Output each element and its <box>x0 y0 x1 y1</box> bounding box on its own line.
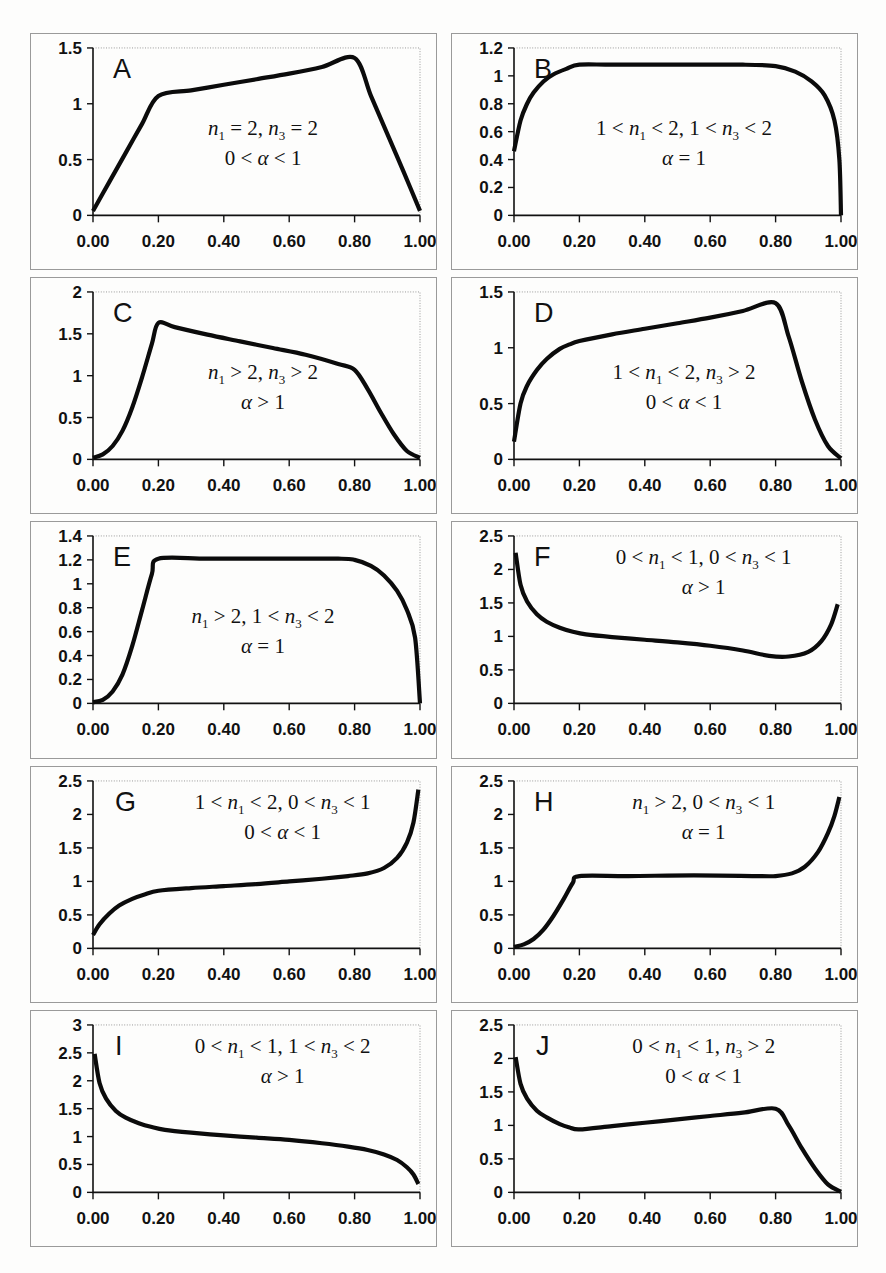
chart-panel-i: 00.511.522.530.000.200.400.600.801.00I0 … <box>30 1010 437 1247</box>
x-tick-label: 0.20 <box>563 476 596 495</box>
x-tick-label: 0.40 <box>207 721 240 740</box>
annotation-line-2: 0 < α < 1 <box>225 146 302 170</box>
panel-letter-j: J <box>536 1031 549 1061</box>
y-tick-label: 0 <box>73 695 82 714</box>
x-tick-label: 0.20 <box>563 232 596 251</box>
y-tick-label: 0 <box>73 206 82 225</box>
chart-svg-c: 00.511.520.000.200.400.600.801.00Cn1 > 2… <box>31 278 436 513</box>
y-tick-label: 2 <box>73 805 82 824</box>
x-tick-label: 0.80 <box>759 232 792 251</box>
panel-grid: 00.511.50.000.200.400.600.801.00An1 = 2,… <box>30 33 858 1247</box>
x-tick-label: 0.80 <box>338 1209 371 1228</box>
x-tick-label: 0.60 <box>273 1209 306 1228</box>
panel-letter-f: F <box>534 542 550 572</box>
y-tick-label: 1 <box>494 628 503 647</box>
panel-letter-e: E <box>113 542 131 572</box>
y-tick-label: 0.2 <box>58 671 82 690</box>
y-tick-label: 3 <box>73 1016 82 1035</box>
y-tick-label: 0.4 <box>479 151 503 170</box>
chart-svg-f: 00.511.522.50.000.200.400.600.801.00F0 <… <box>452 522 857 757</box>
chart-svg-e: 00.20.40.60.811.21.40.000.200.400.600.80… <box>31 522 436 757</box>
y-tick-label: 1.2 <box>479 39 503 58</box>
x-tick-label: 1.00 <box>824 1209 857 1228</box>
annotation-line-2: α > 1 <box>241 390 285 414</box>
x-tick-label: 0.80 <box>759 476 792 495</box>
x-tick-label: 0.60 <box>273 232 306 251</box>
chart-panel-a: 00.511.50.000.200.400.600.801.00An1 = 2,… <box>30 33 437 270</box>
y-tick-label: 0 <box>494 939 503 958</box>
annotation-line-2: α = 1 <box>682 819 726 843</box>
y-tick-label: 0.5 <box>58 151 82 170</box>
annotation-line-1: n1 > 2, n3 > 2 <box>208 360 318 387</box>
y-tick-label: 1.5 <box>479 283 503 302</box>
annotation-line-1: 1 < n1 < 2, 1 < n3 < 2 <box>596 116 772 143</box>
chart-svg-i: 00.511.522.530.000.200.400.600.801.00I0 … <box>31 1011 436 1246</box>
x-tick-label: 0.00 <box>497 1209 530 1228</box>
y-tick-label: 2.5 <box>479 772 503 791</box>
y-tick-label: 0.2 <box>479 178 503 197</box>
x-tick-label: 0.40 <box>628 965 661 984</box>
y-tick-label: 1 <box>494 67 503 86</box>
x-tick-label: 0.60 <box>694 721 727 740</box>
data-curve <box>93 558 420 704</box>
x-tick-label: 1.00 <box>824 721 857 740</box>
chart-svg-j: 00.511.522.50.000.200.400.600.801.00J0 <… <box>452 1011 857 1246</box>
x-tick-label: 0.00 <box>497 232 530 251</box>
y-tick-label: 2.5 <box>479 527 503 546</box>
x-tick-label: 0.00 <box>497 721 530 740</box>
y-tick-label: 1 <box>73 95 82 114</box>
x-tick-label: 0.60 <box>694 232 727 251</box>
y-tick-label: 0.5 <box>479 661 503 680</box>
x-tick-label: 1.00 <box>824 965 857 984</box>
x-tick-label: 0.40 <box>207 476 240 495</box>
x-tick-label: 1.00 <box>824 476 857 495</box>
y-tick-label: 0 <box>494 206 503 225</box>
y-tick-label: 0.4 <box>58 647 82 666</box>
y-tick-label: 1.5 <box>479 839 503 858</box>
chart-panel-e: 00.20.40.60.811.21.40.000.200.400.600.80… <box>30 521 437 758</box>
y-tick-label: 0.5 <box>58 1155 82 1174</box>
x-tick-label: 0.00 <box>497 476 530 495</box>
x-tick-label: 0.60 <box>694 476 727 495</box>
y-tick-label: 0.6 <box>479 123 503 142</box>
annotation-group: n1 > 2, 0 < n3 < 1α = 1 <box>632 789 775 843</box>
annotation-group: n1 > 2, n3 > 2α > 1 <box>208 360 318 414</box>
y-tick-label: 0 <box>73 939 82 958</box>
x-tick-label: 0.00 <box>76 476 109 495</box>
annotation-line-1: 1 < n1 < 2, n3 > 2 <box>613 360 756 387</box>
annotation-line-2: α > 1 <box>261 1064 305 1088</box>
x-tick-label: 0.40 <box>628 232 661 251</box>
y-tick-label: 1 <box>73 872 82 891</box>
x-tick-label: 0.00 <box>76 965 109 984</box>
x-tick-label: 0.80 <box>759 1209 792 1228</box>
annotation-line-2: 0 < α < 1 <box>244 819 321 843</box>
x-tick-label: 0.20 <box>563 721 596 740</box>
x-tick-label: 0.20 <box>142 476 175 495</box>
x-tick-label: 0.80 <box>759 965 792 984</box>
x-tick-label: 1.00 <box>403 232 436 251</box>
y-tick-label: 1 <box>494 1116 503 1135</box>
x-tick-label: 0.40 <box>628 1209 661 1228</box>
x-tick-label: 0.80 <box>759 721 792 740</box>
annotation-group: 0 < n1 < 1, 0 < n3 < 1α > 1 <box>616 545 792 599</box>
x-tick-label: 0.20 <box>563 965 596 984</box>
annotation-group: 0 < n1 < 1, n3 > 20 < α < 1 <box>632 1034 775 1088</box>
panel-letter-i: I <box>115 1031 122 1061</box>
x-tick-label: 0.00 <box>497 965 530 984</box>
annotation-line-1: n1 > 2, 1 < n3 < 2 <box>192 604 335 631</box>
chart-panel-g: 00.511.522.50.000.200.400.600.801.00G1 <… <box>30 766 437 1003</box>
y-tick-label: 1 <box>73 1127 82 1146</box>
annotation-line-1: n1 > 2, 0 < n3 < 1 <box>632 789 775 816</box>
y-tick-label: 0 <box>494 1183 503 1202</box>
x-tick-label: 0.60 <box>273 721 306 740</box>
chart-panel-b: 00.20.40.60.811.20.000.200.400.600.801.0… <box>451 33 858 270</box>
y-tick-label: 0.8 <box>58 599 82 618</box>
data-curve <box>514 797 839 947</box>
x-tick-label: 0.40 <box>207 1209 240 1228</box>
x-tick-label: 0.60 <box>273 476 306 495</box>
x-tick-label: 0.60 <box>694 965 727 984</box>
y-tick-label: 0.5 <box>479 395 503 414</box>
y-tick-label: 1.5 <box>58 39 82 58</box>
x-tick-label: 1.00 <box>403 1209 436 1228</box>
y-tick-label: 0 <box>494 695 503 714</box>
